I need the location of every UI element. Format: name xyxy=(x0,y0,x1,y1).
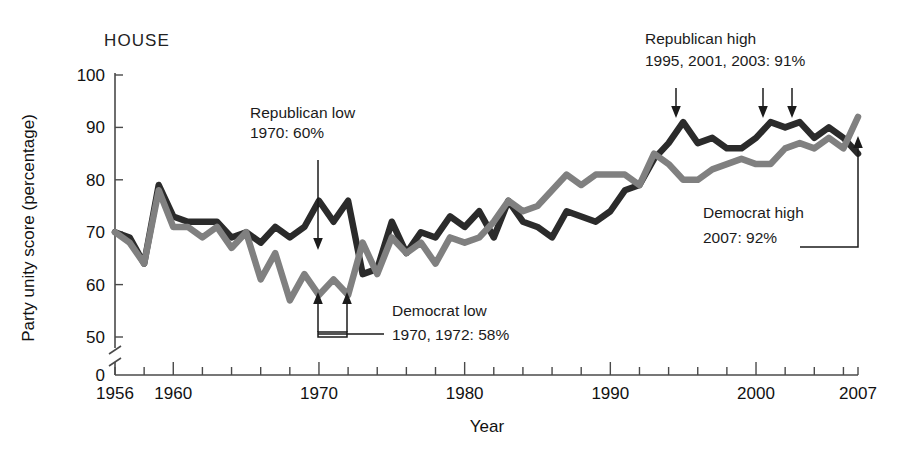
y-tick-label-70: 70 xyxy=(86,223,105,242)
x-tick-label-1980: 1980 xyxy=(446,384,484,403)
x-tick-label-2000: 2000 xyxy=(737,384,775,403)
y-axis-title: Party unity score (percentage) xyxy=(19,114,38,342)
x-tick-label-2007: 2007 xyxy=(839,384,877,403)
x-tick-label-1970: 1970 xyxy=(300,384,338,403)
rep-high-line1: Republican high xyxy=(645,30,756,47)
rep-low-line1: Republican low xyxy=(250,104,356,121)
dem-low-line2: 1970, 1972: 58% xyxy=(392,326,509,343)
dem-high-line2: 2007: 92% xyxy=(703,229,777,246)
x-axis-title: Year xyxy=(470,417,505,436)
x-tick-label-1990: 1990 xyxy=(591,384,629,403)
chart-figure: HOUSE 1009080706050019561960197019801990… xyxy=(0,0,904,462)
y-tick-label-0: 0 xyxy=(96,366,105,385)
party-unity-line-chart: HOUSE 1009080706050019561960197019801990… xyxy=(0,0,904,462)
panel-label: HOUSE xyxy=(104,31,170,50)
x-tick-label-1960: 1960 xyxy=(154,384,192,403)
dem-low-line1: Democrat low xyxy=(392,302,488,319)
dem-high-line1: Democrat high xyxy=(703,204,804,221)
rep-low-line2: 1970: 60% xyxy=(250,124,324,141)
y-tick-label-80: 80 xyxy=(86,171,105,190)
y-tick-label-60: 60 xyxy=(86,276,105,295)
y-tick-label-90: 90 xyxy=(86,118,105,137)
y-tick-label-50: 50 xyxy=(86,328,105,347)
rep-high-line2: 1995, 2001, 2003: 91% xyxy=(645,52,806,69)
x-tick-label-1956: 1956 xyxy=(96,384,134,403)
y-tick-label-100: 100 xyxy=(77,66,105,85)
